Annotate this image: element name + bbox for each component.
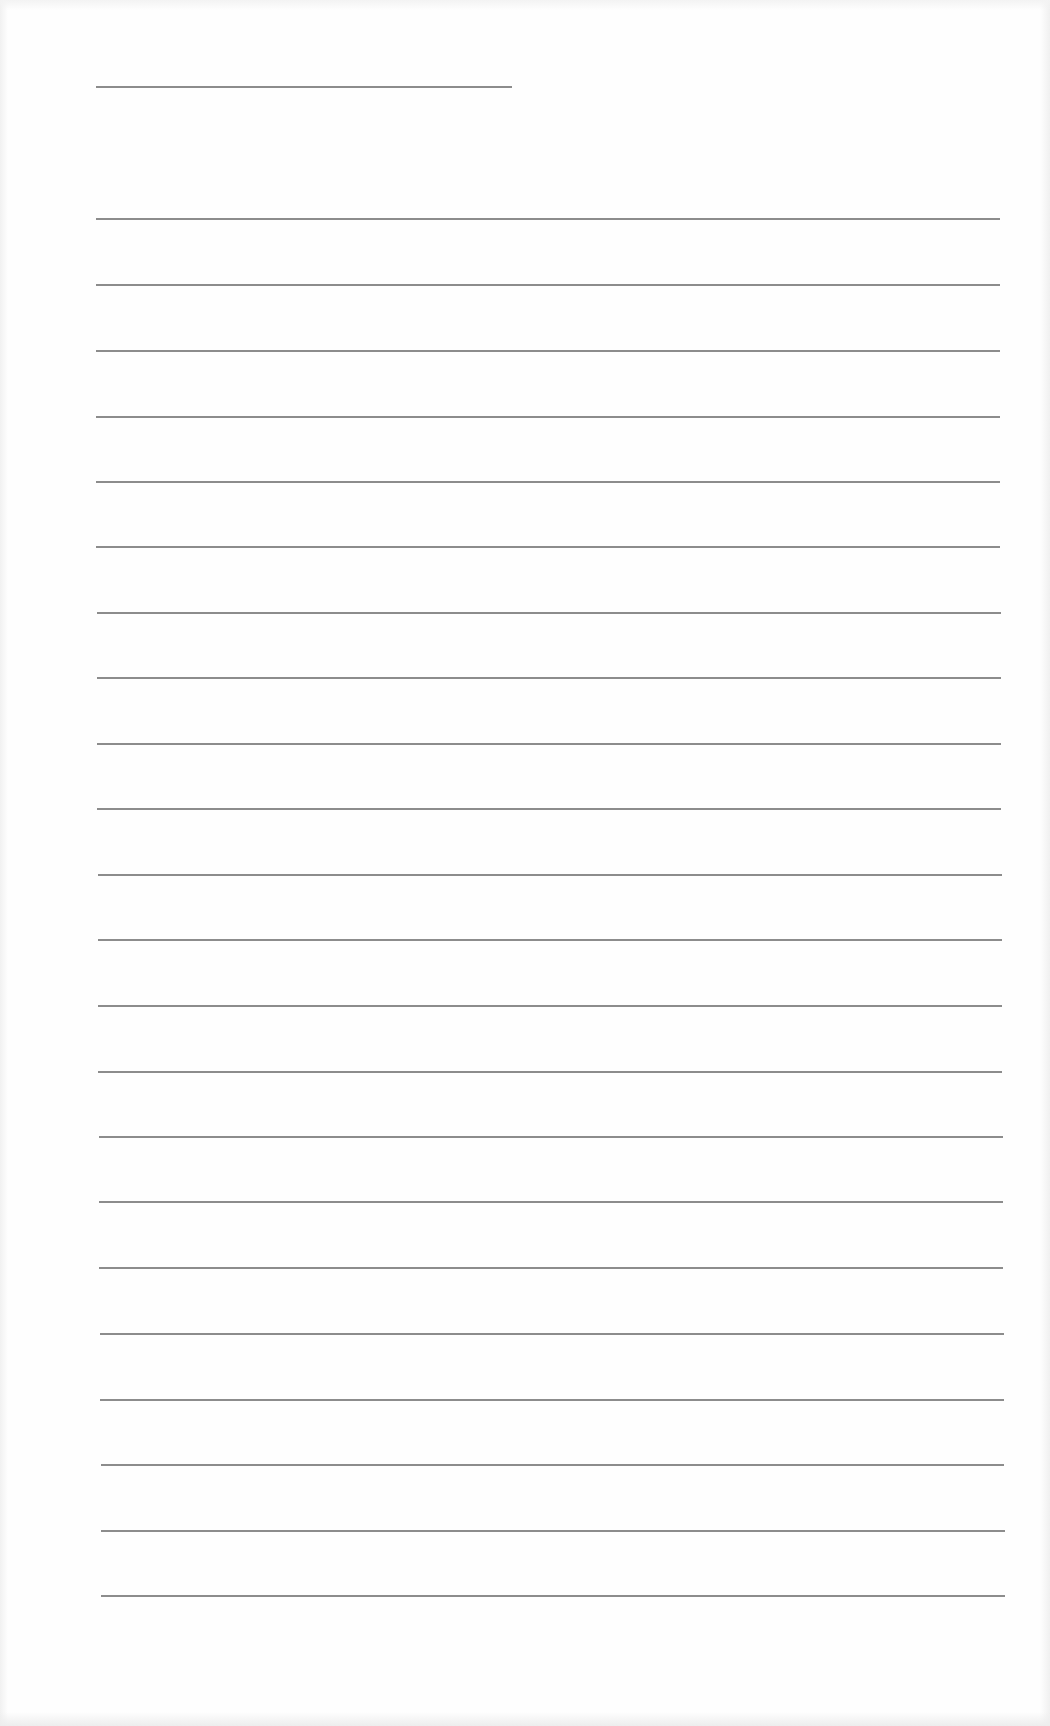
ruled-line	[97, 743, 1001, 745]
page-edge-right	[1040, 0, 1050, 1726]
ruled-line	[101, 1530, 1005, 1532]
ruled-line	[99, 1267, 1003, 1269]
ruled-line	[98, 939, 1002, 941]
ruled-line	[99, 1136, 1003, 1138]
ruled-line	[99, 1201, 1003, 1203]
ruled-line	[98, 1071, 1002, 1073]
ruled-line	[96, 546, 1000, 548]
ruled-line	[101, 1464, 1004, 1466]
lined-paper-page: Blank ruled writing sheet with a short t…	[0, 0, 1050, 1726]
page-edge-top	[0, 0, 1050, 10]
ruled-line	[97, 677, 1001, 679]
ruled-line	[100, 1399, 1004, 1401]
ruled-line	[101, 1595, 1005, 1597]
ruled-line	[96, 284, 1000, 286]
ruled-line	[96, 416, 1000, 418]
ruled-line	[96, 481, 1000, 483]
ruled-line	[100, 1333, 1004, 1335]
ruled-line	[97, 612, 1001, 614]
ruled-line	[96, 350, 1000, 352]
ruled-line	[97, 808, 1001, 810]
ruled-line	[96, 218, 1000, 220]
ruled-line	[98, 1005, 1002, 1007]
page-edge-left	[0, 0, 8, 1726]
title-line	[96, 86, 512, 88]
page-edge-bottom	[0, 1712, 1050, 1726]
ruled-line	[98, 874, 1002, 876]
